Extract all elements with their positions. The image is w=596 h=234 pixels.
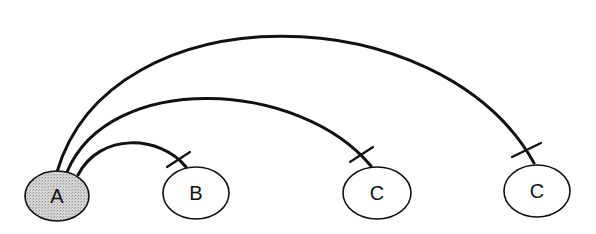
node-c-3: C [504, 165, 570, 217]
edges-group [57, 36, 541, 175]
node-label: B [189, 182, 202, 204]
edge-arc [57, 36, 534, 172]
node-a-0: A [25, 171, 89, 221]
arc-diagram: ABCC [0, 0, 596, 234]
edge-arc [67, 98, 371, 172]
node-label: C [530, 180, 544, 202]
node-c-2: C [343, 167, 411, 219]
edge-a-to-b [78, 143, 190, 175]
node-b-1: B [163, 167, 229, 219]
edge-arc [78, 143, 186, 175]
node-label: C [370, 182, 384, 204]
node-label: A [50, 185, 64, 207]
edge-tick-mark [512, 143, 541, 157]
nodes-group: ABCC [25, 165, 570, 221]
edge-a-to-c [57, 36, 541, 172]
edge-a-to-c [67, 98, 373, 172]
